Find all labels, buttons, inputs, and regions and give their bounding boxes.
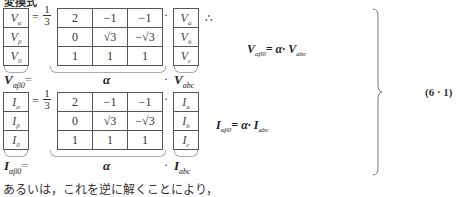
vector-cell: Ib: [174, 112, 198, 131]
lhs-vector-i-alpha-beta-0: Iα Iβ I0: [3, 92, 29, 150]
label-v-abc: Vabc: [174, 72, 194, 90]
dot-operator: ·: [164, 158, 168, 173]
dot-operator: ·: [164, 72, 168, 87]
vector-cell: Vb: [174, 28, 198, 47]
lhs-vector-v-alpha-beta-0: Vα Vβ V0: [3, 8, 29, 66]
scalar-fraction: 1 3: [43, 4, 51, 27]
vector-cell: Iβ: [4, 112, 28, 131]
dot-operator: ·: [164, 8, 168, 23]
label-i-alpha-beta-0: Iαβ0=: [4, 158, 29, 176]
dot-operator: ·: [164, 92, 168, 107]
equals-sign: =: [32, 94, 39, 109]
vector-cell: Va: [174, 9, 198, 28]
vector-cell: I0: [4, 131, 28, 149]
equation-number: (6 · 1): [425, 86, 453, 98]
relation-i: Iαβ0= α· Iabc: [216, 118, 269, 134]
underbrace: [174, 150, 198, 157]
label-alpha: α: [103, 158, 110, 174]
rhs-vector-v-abc: Va Vb Vc: [173, 8, 199, 66]
right-brace: [372, 8, 382, 176]
label-i-abc: Iabc: [174, 158, 191, 176]
vector-cell: Vα: [4, 9, 28, 28]
equals-sign: =: [32, 10, 39, 25]
label-v-alpha-beta-0: Vαβ0=: [4, 72, 32, 90]
underbrace: [50, 150, 166, 157]
vector-cell: Vβ: [4, 28, 28, 47]
therefore-symbol: ∴: [205, 11, 213, 26]
vector-cell: Ic: [174, 131, 198, 149]
rhs-vector-i-abc: Ia Ib Ic: [173, 92, 199, 150]
vector-cell: Iα: [4, 93, 28, 112]
vector-cell: V0: [4, 47, 28, 65]
footer-text: あるいは，これを逆に解くことにより，: [3, 180, 218, 197]
relation-v: Vαβ0= α· Vabc: [247, 42, 306, 58]
label-alpha: α: [103, 72, 110, 88]
scalar-fraction: 1 3: [43, 88, 51, 111]
alpha-matrix: 2−1−1 0√3−√3 111: [57, 92, 163, 150]
vector-cell: Ia: [174, 93, 198, 112]
vector-cell: Vc: [174, 47, 198, 65]
underbrace: [4, 150, 28, 157]
alpha-matrix: 2−1−1 0√3−√3 111: [57, 8, 163, 66]
